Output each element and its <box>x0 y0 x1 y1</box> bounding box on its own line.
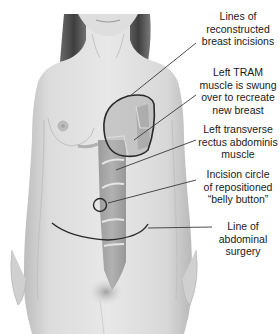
label-line: “belly button” <box>196 193 280 206</box>
label-line: muscle <box>196 148 280 161</box>
label-line: Left transverse <box>196 123 280 136</box>
label-breast-incisions: Lines of reconstructed breast incisions <box>196 10 280 48</box>
label-line: abdominal <box>212 233 274 246</box>
label-line: breast incisions <box>196 35 280 48</box>
label-abdominal-line: Line of abdominal surgery <box>212 220 274 258</box>
label-line: of repositioned <box>196 181 280 194</box>
label-line: Incision circle <box>196 168 280 181</box>
tram-flap-illustration <box>0 0 280 334</box>
label-tram-muscle: Left TRAM muscle is swung over to recrea… <box>196 66 280 116</box>
label-line: Left TRAM <box>196 66 280 79</box>
label-line: Line of <box>212 220 274 233</box>
label-line: over to recreate <box>196 91 280 104</box>
label-line: muscle is swung <box>196 79 280 92</box>
label-line: surgery <box>212 245 274 258</box>
label-line: new breast <box>196 104 280 117</box>
label-belly-button: Incision circle of repositioned “belly b… <box>196 168 280 206</box>
label-rectus-muscle: Left transverse rectus abdominis muscle <box>196 123 280 161</box>
label-line: Lines of <box>196 10 280 23</box>
label-line: rectus abdominis <box>196 136 280 149</box>
label-line: reconstructed <box>196 23 280 36</box>
